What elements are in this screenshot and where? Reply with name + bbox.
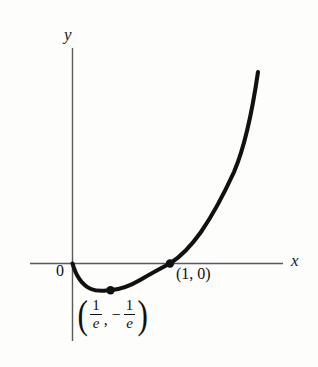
y-axis-label: y: [64, 26, 72, 43]
x-axis-label: x: [291, 252, 299, 269]
intercept-point-marker: [166, 259, 174, 267]
fraction-x-denominator: e: [91, 315, 102, 331]
intercept-label: (1, 0): [176, 266, 211, 282]
fraction-y-denominator: e: [124, 315, 135, 331]
fraction-y-numerator: 1: [124, 298, 136, 314]
fraction-x-numerator: 1: [90, 298, 102, 314]
minimum-point-label: ( 1 e , − 1 e ): [76, 298, 150, 331]
minus-sign: −: [112, 307, 121, 323]
label-comma: ,: [104, 312, 108, 331]
plot-canvas: [0, 0, 318, 367]
minimum-point-marker: [106, 286, 114, 294]
fraction-x: 1 e: [90, 298, 102, 331]
close-paren: ): [138, 299, 148, 330]
math-figure: y x 0 (1, 0) ( 1 e , − 1 e ): [0, 0, 318, 367]
origin-label: 0: [56, 263, 64, 279]
fraction-y: 1 e: [124, 298, 136, 331]
open-paren: (: [77, 299, 87, 330]
curve-x-ln-x: [73, 72, 259, 291]
